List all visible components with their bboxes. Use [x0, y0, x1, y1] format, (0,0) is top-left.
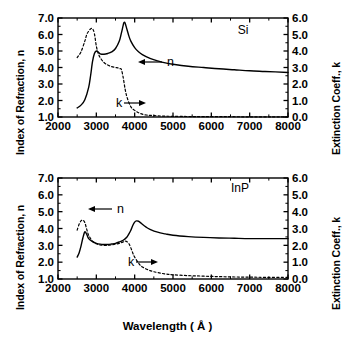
x-tick-label: 6000	[199, 120, 225, 132]
x-tick-label: 4000	[122, 120, 148, 132]
y-tick-label-right: 1.0	[292, 95, 308, 107]
chart-panel-si: Index of Refraction, n Extinction Coeff.…	[0, 0, 335, 160]
y-axis-title-left-inp: Index of Refraction, n	[14, 205, 26, 310]
y-tick-label-left: 5.0	[38, 206, 54, 218]
y-tick-label-left: 2.0	[38, 95, 54, 107]
plot-area-inp: 20003000400050006000700080001.02.03.04.0…	[0, 160, 335, 320]
arrow-head-left-icon	[138, 59, 145, 65]
x-tick-label: 7000	[237, 120, 263, 132]
x-tick-label: 5000	[160, 282, 186, 294]
x-tick-label: 7000	[237, 282, 263, 294]
material-label: Si	[238, 23, 249, 37]
arrow-head-left-icon	[88, 206, 95, 212]
y-tick-label-right: 4.0	[292, 206, 308, 218]
x-tick-label: 4000	[122, 282, 148, 294]
curve-k-inp	[77, 220, 288, 277]
y-tick-label-left: 4.0	[38, 223, 54, 235]
y-tick-label-right: 3.0	[292, 62, 308, 74]
x-tick-label: 3000	[84, 282, 110, 294]
y-tick-label-left: 2.0	[38, 256, 54, 268]
y-tick-label-left: 6.0	[38, 189, 54, 201]
y-tick-label-left: 5.0	[38, 45, 54, 57]
chart-panel-inp: Index of Refraction, n Extinction Coeff.…	[0, 160, 335, 320]
y-axis-title-right-si: Extinction Coeff., k	[330, 62, 342, 155]
y-tick-label-left: 6.0	[38, 29, 54, 41]
y-axis-title-right-inp: Extinction Coeff., k	[330, 217, 342, 310]
y-tick-label-right: 2.0	[292, 78, 308, 90]
plot-area-si: 20003000400050006000700080001.02.03.04.0…	[0, 0, 335, 160]
y-tick-label-left: 7.0	[38, 12, 54, 24]
annotation-label-k: k	[116, 96, 123, 110]
y-tick-label-right: 6.0	[292, 12, 308, 24]
y-tick-label-right: 6.0	[292, 172, 308, 184]
material-label: InP	[231, 181, 249, 195]
annotation-label-n: n	[117, 202, 124, 216]
plot-frame	[58, 178, 288, 279]
y-tick-label-right: 2.0	[292, 240, 308, 252]
y-axis-title-left-si: Index of Refraction, n	[14, 50, 26, 155]
y-tick-label-right: 5.0	[292, 29, 308, 41]
y-tick-label-right: 1.0	[292, 256, 308, 268]
x-axis-title: Wavelength ( Å )	[0, 320, 335, 332]
y-tick-label-right: 5.0	[292, 189, 308, 201]
annotation-label-n: n	[167, 55, 174, 69]
x-tick-label: 3000	[84, 120, 110, 132]
curve-k-si	[77, 28, 288, 117]
y-tick-label-right: 0.0	[292, 273, 308, 285]
y-tick-label-left: 4.0	[38, 62, 54, 74]
y-tick-label-right: 0.0	[292, 111, 308, 123]
arrow-head-right-icon	[151, 259, 158, 265]
y-tick-label-left: 3.0	[38, 78, 54, 90]
y-tick-label-left: 1.0	[38, 111, 54, 123]
y-tick-label-left: 7.0	[38, 172, 54, 184]
x-tick-label: 5000	[160, 120, 186, 132]
y-tick-label-right: 3.0	[292, 223, 308, 235]
y-tick-label-right: 4.0	[292, 45, 308, 57]
y-tick-label-left: 1.0	[38, 273, 54, 285]
annotation-label-k: k	[128, 255, 135, 269]
x-tick-label: 6000	[199, 282, 225, 294]
arrow-head-right-icon	[139, 100, 146, 106]
y-tick-label-left: 3.0	[38, 240, 54, 252]
curve-n-inp	[77, 221, 288, 257]
